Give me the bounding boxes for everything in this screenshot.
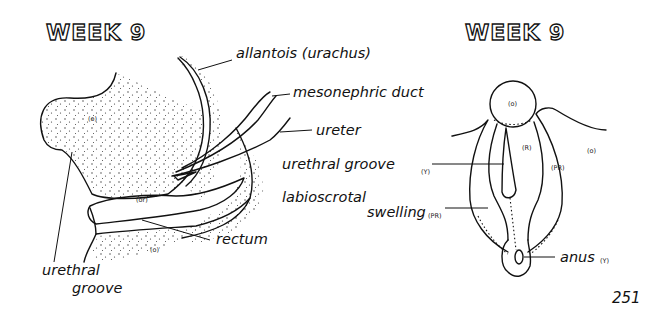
label-ureter: ureter xyxy=(316,122,362,138)
code-urethral-groove: (Y) xyxy=(421,168,430,176)
urethral-groove-shape xyxy=(502,128,516,198)
label-urethral: urethral xyxy=(42,262,100,278)
label-urethral-groove: urethral groove xyxy=(282,156,395,172)
leader-ureter xyxy=(280,130,312,132)
page-number: 251 xyxy=(612,289,641,307)
code-urogenital-sinus: (or) xyxy=(136,196,148,204)
right-panel-external-view: WEEK 9 (o) (R) (PR) (o) anus (Y) xyxy=(432,20,609,276)
label-labioscrotal: labioscrotal xyxy=(282,189,366,205)
code-bladder: (o) xyxy=(88,115,97,123)
code-perineum: (o) xyxy=(150,246,159,254)
perineum-stipple xyxy=(93,226,200,262)
code-fold: (R) xyxy=(522,144,532,152)
left-labioscrotal-swelling xyxy=(452,120,508,252)
middle-labels: urethral groove (Y) labioscrotal swellin… xyxy=(282,156,442,220)
code-anus: (Y) xyxy=(600,257,609,265)
code-outer: (o) xyxy=(587,147,596,155)
right-swelling-dotted xyxy=(530,220,558,254)
code-tubercle: (o) xyxy=(508,100,517,108)
label-rectum: rectum xyxy=(216,231,268,247)
bladder-shape xyxy=(41,58,204,198)
label-groove: groove xyxy=(72,280,122,296)
leader-mesonephric xyxy=(272,94,290,96)
label-allantois: allantois (urachus) xyxy=(236,45,371,61)
code-labioscrotal: (PR) xyxy=(428,212,442,220)
right-labioscrotal-swelling xyxy=(528,108,606,252)
left-week-title: WEEK 9 xyxy=(46,20,146,45)
label-swelling: swelling xyxy=(367,204,426,220)
label-anus: anus xyxy=(560,249,595,265)
anus-opening xyxy=(515,250,523,264)
left-urethral-fold xyxy=(489,124,508,240)
code-swelling: (PR) xyxy=(551,164,565,172)
right-week-title: WEEK 9 xyxy=(465,20,565,45)
raphe-dotted xyxy=(510,198,516,250)
leader-allantois xyxy=(198,60,232,70)
diagram-canvas: WEEK 9 (or) (o) (o) allantois (urachus) … xyxy=(0,0,662,316)
anal-region xyxy=(502,240,531,276)
label-mesonephric-duct: mesonephric duct xyxy=(293,84,425,100)
leader-urethral-groove xyxy=(54,152,72,262)
right-urethral-fold xyxy=(528,122,543,240)
